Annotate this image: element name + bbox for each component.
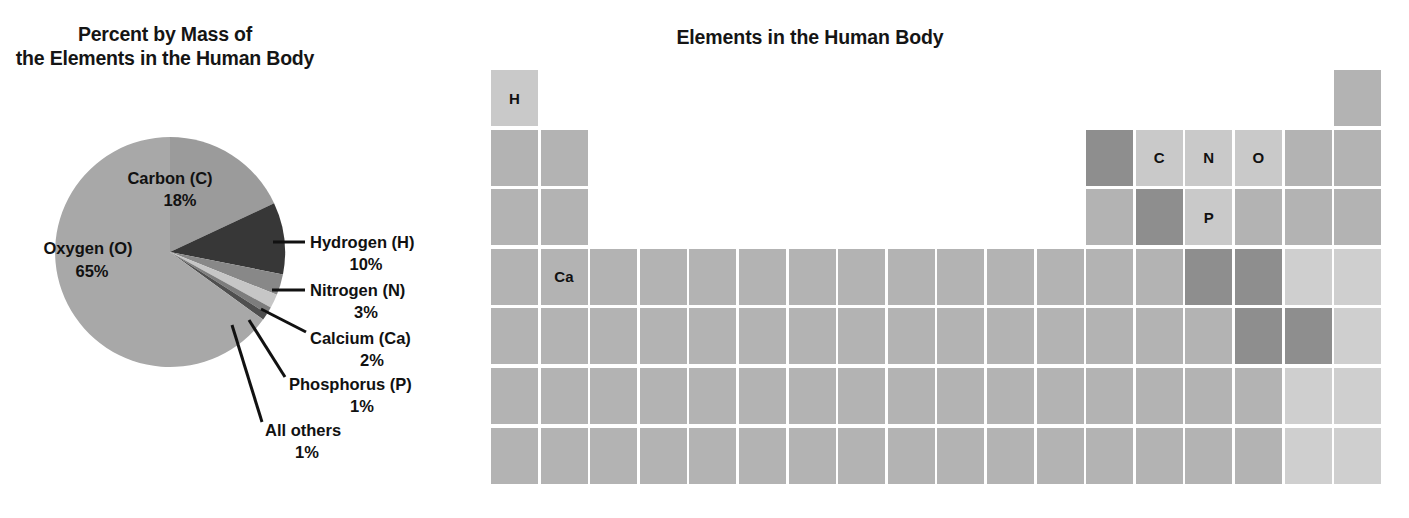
periodic-cell-r4-c14[interactable] <box>1136 249 1183 305</box>
periodic-cell-r7-c2[interactable] <box>541 428 588 484</box>
periodic-cell-r3-c17[interactable] <box>1285 189 1332 245</box>
periodic-cell-r2-c17[interactable] <box>1285 130 1332 186</box>
periodic-cell-r5-c13[interactable] <box>1086 308 1133 364</box>
periodic-cell-r7-c6[interactable] <box>739 428 786 484</box>
periodic-cell-r1-c18[interactable] <box>1334 70 1381 126</box>
periodic-cell-r7-c9[interactable] <box>888 428 935 484</box>
periodic-cell-c[interactable]: C <box>1136 130 1183 186</box>
leader-line-calcium <box>261 309 306 332</box>
periodic-cell-ca[interactable]: Ca <box>541 249 588 305</box>
periodic-cell-r6-c10[interactable] <box>937 368 984 424</box>
periodic-cell-p[interactable]: P <box>1185 189 1232 245</box>
periodic-cell-r4-c11[interactable] <box>987 249 1034 305</box>
periodic-cell-r4-c6[interactable] <box>739 249 786 305</box>
periodic-cell-r6-c3[interactable] <box>590 368 637 424</box>
periodic-cell-o[interactable]: O <box>1235 130 1282 186</box>
periodic-cell-r5-c6[interactable] <box>739 308 786 364</box>
figure-root: Percent by Mass of the Elements in the H… <box>0 0 1409 518</box>
periodic-cell-r5-c10[interactable] <box>937 308 984 364</box>
periodic-cell-r7-c3[interactable] <box>590 428 637 484</box>
periodic-cell-r6-c2[interactable] <box>541 368 588 424</box>
periodic-cell-r3-c1[interactable] <box>491 189 538 245</box>
periodic-cell-r5-c17[interactable] <box>1285 308 1332 364</box>
periodic-cell-r4-c9[interactable] <box>888 249 935 305</box>
periodic-cell-r5-c5[interactable] <box>689 308 736 364</box>
periodic-cell-r6-c4[interactable] <box>640 368 687 424</box>
leader-line-all-others <box>232 325 262 422</box>
periodic-cell-r4-c7[interactable] <box>789 249 836 305</box>
periodic-cell-r3-c16[interactable] <box>1235 189 1282 245</box>
periodic-cell-r7-c12[interactable] <box>1037 428 1084 484</box>
periodic-cell-r5-c9[interactable] <box>888 308 935 364</box>
periodic-cell-r2-c18[interactable] <box>1334 130 1381 186</box>
periodic-cell-r5-c8[interactable] <box>838 308 885 364</box>
periodic-cell-r4-c10[interactable] <box>937 249 984 305</box>
element-symbol: P <box>1204 209 1214 226</box>
pie-label-carbon-name: Carbon (C) <box>127 169 212 187</box>
leader-line-phosphorus <box>249 320 285 377</box>
periodic-cell-r3-c14[interactable] <box>1136 189 1183 245</box>
periodic-cell-r4-c5[interactable] <box>689 249 736 305</box>
periodic-cell-r5-c12[interactable] <box>1037 308 1084 364</box>
periodic-cell-r4-c18[interactable] <box>1334 249 1381 305</box>
periodic-cell-r6-c11[interactable] <box>987 368 1034 424</box>
periodic-cell-r6-c5[interactable] <box>689 368 736 424</box>
periodic-cell-r6-c7[interactable] <box>789 368 836 424</box>
periodic-cell-r6-c14[interactable] <box>1136 368 1183 424</box>
periodic-cell-r5-c3[interactable] <box>590 308 637 364</box>
periodic-cell-r4-c16[interactable] <box>1235 249 1282 305</box>
element-symbol: O <box>1253 149 1265 166</box>
periodic-cell-r7-c7[interactable] <box>789 428 836 484</box>
periodic-cell-r5-c16[interactable] <box>1235 308 1282 364</box>
periodic-cell-r5-c18[interactable] <box>1334 308 1381 364</box>
periodic-cell-r6-c9[interactable] <box>888 368 935 424</box>
periodic-cell-r7-c14[interactable] <box>1136 428 1183 484</box>
periodic-cell-r3-c13[interactable] <box>1086 189 1133 245</box>
periodic-cell-r5-c15[interactable] <box>1185 308 1232 364</box>
periodic-cell-r6-c17[interactable] <box>1285 368 1332 424</box>
periodic-cell-r5-c11[interactable] <box>987 308 1034 364</box>
periodic-cell-r7-c18[interactable] <box>1334 428 1381 484</box>
periodic-cell-r2-c13[interactable] <box>1086 130 1133 186</box>
periodic-cell-r4-c17[interactable] <box>1285 249 1332 305</box>
periodic-cell-r6-c18[interactable] <box>1334 368 1381 424</box>
periodic-cell-r3-c2[interactable] <box>541 189 588 245</box>
periodic-cell-r6-c16[interactable] <box>1235 368 1282 424</box>
periodic-cell-r6-c13[interactable] <box>1086 368 1133 424</box>
periodic-cell-r2-c2[interactable] <box>541 130 588 186</box>
periodic-cell-n[interactable]: N <box>1185 130 1232 186</box>
pie-chart-panel: Percent by Mass of the Elements in the H… <box>0 0 480 518</box>
periodic-cell-r7-c10[interactable] <box>937 428 984 484</box>
periodic-cell-r4-c8[interactable] <box>838 249 885 305</box>
periodic-cell-r4-c15[interactable] <box>1185 249 1232 305</box>
periodic-cell-r4-c3[interactable] <box>590 249 637 305</box>
periodic-cell-r5-c4[interactable] <box>640 308 687 364</box>
periodic-cell-r6-c6[interactable] <box>739 368 786 424</box>
periodic-cell-r6-c15[interactable] <box>1185 368 1232 424</box>
periodic-cell-r7-c4[interactable] <box>640 428 687 484</box>
periodic-cell-r7-c13[interactable] <box>1086 428 1133 484</box>
periodic-cell-r3-c18[interactable] <box>1334 189 1381 245</box>
periodic-cell-r6-c8[interactable] <box>838 368 885 424</box>
periodic-cell-r7-c8[interactable] <box>838 428 885 484</box>
periodic-cell-r7-c1[interactable] <box>491 428 538 484</box>
periodic-cell-r7-c11[interactable] <box>987 428 1034 484</box>
periodic-cell-r5-c1[interactable] <box>491 308 538 364</box>
periodic-cell-r4-c4[interactable] <box>640 249 687 305</box>
pie-title-line-1: Percent by Mass of <box>78 23 252 45</box>
periodic-cell-r7-c17[interactable] <box>1285 428 1332 484</box>
pie-chart-title: Percent by Mass of the Elements in the H… <box>0 22 330 70</box>
periodic-cell-r5-c7[interactable] <box>789 308 836 364</box>
periodic-cell-r5-c14[interactable] <box>1136 308 1183 364</box>
periodic-cell-h[interactable]: H <box>491 70 538 126</box>
periodic-cell-r6-c12[interactable] <box>1037 368 1084 424</box>
periodic-cell-r6-c1[interactable] <box>491 368 538 424</box>
periodic-cell-r7-c16[interactable] <box>1235 428 1282 484</box>
periodic-cell-r2-c1[interactable] <box>491 130 538 186</box>
periodic-cell-r4-c13[interactable] <box>1086 249 1133 305</box>
periodic-cell-r7-c5[interactable] <box>689 428 736 484</box>
periodic-cell-r4-c1[interactable] <box>491 249 538 305</box>
periodic-cell-r4-c12[interactable] <box>1037 249 1084 305</box>
periodic-cell-r5-c2[interactable] <box>541 308 588 364</box>
periodic-cell-r7-c15[interactable] <box>1185 428 1232 484</box>
